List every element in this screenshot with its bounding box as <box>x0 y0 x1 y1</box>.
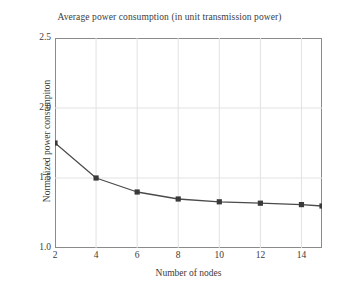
data-point-marker <box>176 196 181 201</box>
x-tick-label: 4 <box>82 251 110 261</box>
y-axis-label-wrapper: Normalized power consumpiton <box>18 0 32 297</box>
chart-figure: Average power consumption (in unit trans… <box>0 0 339 297</box>
data-series-line <box>55 143 322 206</box>
data-point-marker <box>55 140 58 145</box>
data-point-marker <box>217 199 222 204</box>
x-tick-label: 2 <box>41 251 69 261</box>
x-tick-label: 8 <box>164 251 192 261</box>
data-point-marker <box>299 202 304 207</box>
x-tick-label: 12 <box>246 251 274 261</box>
data-point-marker <box>93 175 98 180</box>
data-markers <box>55 140 322 208</box>
x-tick-label: 10 <box>205 251 233 261</box>
data-point-marker <box>258 201 263 206</box>
data-line <box>55 143 322 206</box>
data-point-marker <box>319 203 322 208</box>
x-axis-label: Number of nodes <box>55 268 322 278</box>
x-tick-label: 6 <box>123 251 151 261</box>
gridlines <box>55 38 322 248</box>
data-point-marker <box>135 189 140 194</box>
x-tick-label: 14 <box>287 251 315 261</box>
y-axis-label: Normalized power consumpiton <box>42 36 52 246</box>
plot-area <box>55 38 322 248</box>
